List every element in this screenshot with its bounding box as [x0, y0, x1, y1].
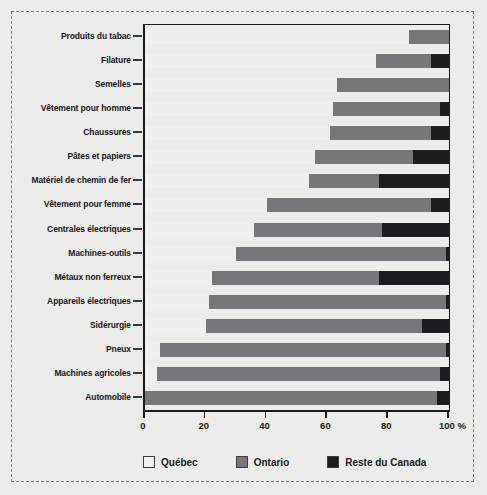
- bar-row: [145, 30, 449, 44]
- legend-item-label: Reste du Canada: [345, 457, 426, 468]
- y-axis-category-label: Métaux non ferreux: [54, 272, 131, 282]
- y-axis-category-label: Appareils électriques: [47, 296, 131, 306]
- y-axis-tick: [133, 396, 142, 398]
- bar-row: [145, 198, 449, 212]
- bar-row: [145, 343, 449, 357]
- legend-item-label: Québec: [161, 457, 198, 468]
- y-axis-tick: [133, 300, 142, 302]
- bar-segment-qc: [145, 271, 212, 285]
- bar-segment-rc: [431, 126, 449, 140]
- bar-row: [145, 174, 449, 188]
- bar-segment-on: [409, 30, 449, 44]
- plot-area: [143, 24, 450, 412]
- bar-segment-rc: [431, 198, 449, 212]
- bar-row: [145, 367, 449, 381]
- x-axis-tick-label: 20: [199, 420, 210, 431]
- legend-swatch-icon: [236, 456, 248, 468]
- x-axis-tick: [386, 411, 388, 418]
- bar-segment-qc: [145, 150, 315, 164]
- x-axis-tick-label: 40: [259, 420, 270, 431]
- bar-segment-rc: [379, 271, 449, 285]
- x-axis-tick: [265, 411, 267, 418]
- bar-segment-on: [376, 54, 431, 68]
- y-axis-category-label: Machines agricoles: [54, 368, 131, 378]
- y-axis-tick: [133, 252, 142, 254]
- bar-segment-rc: [446, 343, 449, 357]
- legend-item-on[interactable]: Ontario: [236, 456, 290, 468]
- bar-segment-qc: [145, 54, 376, 68]
- stacked-bar-chart: Produits du tabacFilatureSemellesVêtemen…: [0, 0, 487, 495]
- bar-segment-on: [160, 343, 446, 357]
- bar-row: [145, 54, 449, 68]
- y-axis-category-label: Sidérurgie: [90, 320, 131, 330]
- y-axis-tick: [133, 59, 142, 61]
- y-axis-tick: [133, 324, 142, 326]
- y-axis-category-label: Vêtement pour homme: [41, 103, 131, 113]
- bar-segment-on: [315, 150, 412, 164]
- bar-row: [145, 271, 449, 285]
- bar-segment-qc: [145, 319, 206, 333]
- bar-segment-rc: [437, 391, 449, 405]
- legend-item-label: Ontario: [254, 457, 290, 468]
- bar-segment-qc: [145, 30, 409, 44]
- bar-segment-on: [254, 223, 382, 237]
- bar-row: [145, 223, 449, 237]
- bar-segment-qc: [145, 343, 160, 357]
- bar-segment-qc: [145, 102, 333, 116]
- bar-segment-on: [145, 391, 437, 405]
- bar-segment-rc: [431, 54, 449, 68]
- x-axis-tick-label: 100 %: [439, 420, 466, 431]
- bar-segment-qc: [145, 367, 157, 381]
- bar-segment-on: [267, 198, 431, 212]
- y-axis-labels: Produits du tabacFilatureSemellesVêtemen…: [0, 24, 131, 409]
- y-axis-tick: [133, 372, 142, 374]
- y-axis-category-label: Machines-outils: [68, 248, 131, 258]
- y-axis-category-label: Produits du tabac: [61, 31, 131, 41]
- y-axis-tick: [133, 35, 142, 37]
- bar-segment-rc: [446, 295, 449, 309]
- x-axis-tick-label: 80: [381, 420, 392, 431]
- chart-page: Produits du tabacFilatureSemellesVêtemen…: [0, 0, 487, 495]
- y-axis-category-label: Vêtement pour femme: [44, 199, 131, 209]
- bar-row: [145, 247, 449, 261]
- bar-row: [145, 391, 449, 405]
- y-axis-category-label: Semelles: [95, 79, 131, 89]
- y-axis-tick: [133, 83, 142, 85]
- y-axis-tick: [133, 179, 142, 181]
- bar-segment-rc: [379, 174, 449, 188]
- y-axis-category-label: Automobile: [85, 392, 131, 402]
- bar-segment-qc: [145, 295, 209, 309]
- y-axis-tick: [133, 276, 142, 278]
- bar-segment-on: [330, 126, 430, 140]
- legend-item-qc[interactable]: Québec: [143, 456, 198, 468]
- bar-segment-qc: [145, 78, 337, 92]
- bar-row: [145, 78, 449, 92]
- bar-segment-on: [209, 295, 446, 309]
- y-axis-category-label: Pâtes et papiers: [67, 151, 131, 161]
- x-axis-tick: [204, 411, 206, 418]
- bar-segment-rc: [422, 319, 449, 333]
- y-axis-category-label: Matériel de chemin de fer: [31, 175, 131, 185]
- y-axis-tick: [133, 155, 142, 157]
- y-axis-tick: [133, 131, 142, 133]
- y-axis-category-label: Filature: [101, 55, 131, 65]
- bar-segment-on: [333, 102, 439, 116]
- legend-item-rc[interactable]: Reste du Canada: [327, 456, 426, 468]
- bar-segment-on: [206, 319, 422, 333]
- y-axis-tick: [133, 348, 142, 350]
- x-axis: 020406080100 %: [143, 411, 448, 441]
- bar-row: [145, 150, 449, 164]
- bar-segment-on: [212, 271, 379, 285]
- y-axis-tick: [133, 203, 142, 205]
- bar-rows: [145, 25, 449, 410]
- x-axis-tick-label: 60: [320, 420, 331, 431]
- bar-segment-rc: [440, 367, 449, 381]
- bar-segment-on: [157, 367, 440, 381]
- y-axis-category-label: Chaussures: [83, 127, 131, 137]
- bar-segment-on: [309, 174, 379, 188]
- bar-segment-rc: [413, 150, 449, 164]
- x-axis-tick: [143, 411, 145, 418]
- bar-segment-qc: [145, 126, 330, 140]
- bar-segment-rc: [382, 223, 449, 237]
- bar-segment-on: [236, 247, 446, 261]
